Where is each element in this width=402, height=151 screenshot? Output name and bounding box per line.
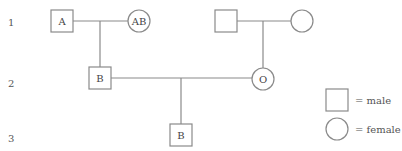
- generation-label-1: 1: [8, 17, 14, 28]
- individual-label: B: [96, 73, 103, 84]
- legend-male-label: = male: [355, 95, 391, 106]
- legend: = male = female: [326, 89, 401, 140]
- individual-label: O: [259, 74, 267, 85]
- generation-label-2: 2: [8, 78, 14, 89]
- male-square: [215, 10, 237, 32]
- individual-label: B: [177, 130, 184, 141]
- individual-g1-male-right: [215, 10, 237, 32]
- individual-g2-female: O: [252, 68, 274, 90]
- individual-g1-male-left: A: [51, 10, 73, 32]
- female-circle: [291, 10, 313, 32]
- individual-g3-male: B: [170, 124, 192, 146]
- individual-g2-male: B: [89, 67, 111, 89]
- individual-g1-female-left: AB: [128, 10, 150, 32]
- legend-male-square: [326, 89, 348, 111]
- legend-female-circle: [326, 118, 348, 140]
- individual-label: AB: [131, 16, 147, 27]
- individual-g1-female-right: [291, 10, 313, 32]
- pedigree-diagram: 1 2 3 A AB B O B = male = fema: [0, 0, 402, 151]
- generation-label-3: 3: [8, 133, 14, 144]
- individual-label: A: [57, 16, 66, 27]
- legend-female-label: = female: [355, 124, 401, 135]
